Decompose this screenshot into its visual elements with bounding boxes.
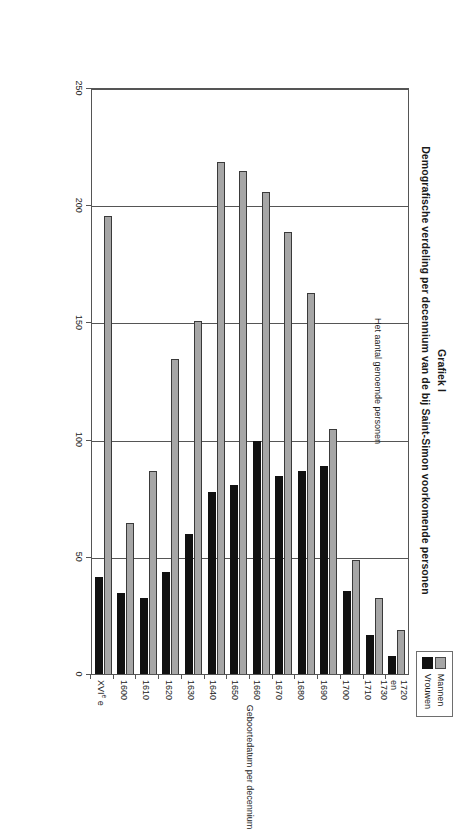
bar-series-container: [92, 89, 408, 674]
bar-group: [160, 89, 183, 674]
bar-group: [340, 89, 363, 674]
category-tick: [113, 674, 114, 679]
legend-item-vrouwen: Vrouwen: [422, 657, 434, 709]
figure-label: Grafiek I: [435, 0, 449, 741]
legend-swatch-vrouwen: [423, 657, 434, 669]
bar-vrouwen-1650: [230, 485, 238, 674]
bar-vrouwen-1690: [320, 466, 328, 674]
bar-vrouwen-1670: [275, 476, 283, 674]
bar-group: [205, 89, 228, 674]
bar-group: [182, 89, 205, 674]
bar-group: [295, 89, 318, 674]
bar-mannen-XVIe-e: [104, 216, 112, 674]
category-tick: [181, 674, 182, 679]
bar-mannen-1720-en-1730: [397, 630, 405, 674]
bar-mannen-1620: [171, 359, 179, 674]
value-tick-label-200: 200: [74, 198, 84, 213]
value-tick-label-100: 100: [74, 432, 84, 447]
bar-vrouwen-1640: [208, 492, 216, 674]
value-tick-label-150: 150: [74, 315, 84, 330]
category-label-1670: 1670: [268, 680, 290, 740]
bar-group: [137, 89, 160, 674]
plot-wrapper: 1720en1730171017001690168016701660165016…: [91, 88, 409, 674]
category-label-1710: 1710: [357, 680, 379, 740]
value-tick-100: [86, 440, 91, 441]
title-block: Grafiek I Demografische verdeling per de…: [418, 0, 449, 741]
legend-swatch-mannen: [436, 657, 447, 669]
bar-vrouwen-1700: [343, 591, 351, 674]
value-tick-50: [86, 557, 91, 558]
bar-vrouwen-1630: [185, 534, 193, 674]
bar-mannen-1670: [284, 232, 292, 674]
bar-mannen-1610: [149, 471, 157, 674]
bar-vrouwen-1610: [140, 598, 148, 674]
bar-vrouwen-1600: [117, 593, 125, 674]
bar-mannen-1630: [194, 321, 202, 674]
category-label-1600: 1600: [113, 680, 135, 740]
value-tick-0: [86, 674, 91, 675]
bar-mannen-1660: [262, 192, 270, 674]
category-tick: [385, 674, 386, 679]
category-tick: [226, 674, 227, 679]
category-tick: [158, 674, 159, 679]
legend-item-mannen: Mannen: [435, 657, 447, 709]
category-axis-labels: 1720en1730171017001690168016701660165016…: [91, 680, 409, 740]
bar-group: [318, 89, 341, 674]
value-axis-title: Het aantal genoemde personen: [373, 88, 383, 674]
category-label-1640: 1640: [202, 680, 224, 740]
category-tick: [363, 674, 364, 679]
category-tick: [340, 674, 341, 679]
value-tick-200: [86, 205, 91, 206]
bar-vrouwen-XVIe-e: [95, 577, 103, 674]
category-label-1620: 1620: [157, 680, 179, 740]
category-tick: [317, 674, 318, 679]
category-label-1700: 1700: [335, 680, 357, 740]
bar-mannen-1680: [307, 293, 315, 674]
category-label-1680: 1680: [290, 680, 312, 740]
value-tick-150: [86, 322, 91, 323]
legend-label-mannen: Mannen: [435, 674, 447, 707]
bar-mannen-1600: [126, 523, 134, 674]
bar-mannen-1650: [239, 171, 247, 674]
category-label-1650: 1650: [224, 680, 246, 740]
bar-group: [92, 89, 115, 674]
category-tick: [204, 674, 205, 679]
bar-mannen-1640: [217, 162, 225, 674]
chart-legend: Mannen Vrouwen: [416, 651, 453, 717]
legend-label-vrouwen: Vrouwen: [422, 674, 434, 709]
plot-area: [91, 88, 409, 674]
category-label-1610: 1610: [135, 680, 157, 740]
bar-mannen-1700: [352, 560, 360, 674]
category-label-1660: 1660: [246, 680, 268, 740]
value-tick-label-0: 0: [74, 671, 84, 676]
bar-group: [227, 89, 250, 674]
category-tick: [294, 674, 295, 679]
category-axis-line: [91, 674, 409, 675]
bar-vrouwen-1620: [162, 572, 170, 674]
category-label-1690: 1690: [313, 680, 335, 740]
bar-mannen-1690: [329, 429, 337, 674]
page-title: Demografische verdeling per decennium va…: [418, 0, 433, 741]
category-tick: [135, 674, 136, 679]
bar-group: [273, 89, 296, 674]
bar-group: [385, 89, 408, 674]
value-tick-label-50: 50: [74, 552, 84, 562]
category-label-XVIe-e: XVIe e: [91, 680, 113, 740]
category-tick: [272, 674, 273, 679]
category-label-1720-en-1730: 1720en1730: [379, 680, 409, 740]
bar-vrouwen-1660: [253, 441, 261, 674]
value-axis: 050100150200250: [90, 88, 91, 674]
bar-vrouwen-1720-en-1730: [388, 656, 396, 674]
bar-group: [114, 89, 137, 674]
bar-vrouwen-1680: [298, 471, 306, 674]
category-label-1630: 1630: [180, 680, 202, 740]
category-tick: [249, 674, 250, 679]
value-tick-250: [86, 88, 91, 89]
value-tick-label-250: 250: [74, 80, 84, 95]
bar-group: [250, 89, 273, 674]
